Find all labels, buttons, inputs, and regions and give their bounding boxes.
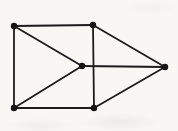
edge-bottom-left-center xyxy=(14,66,82,108)
node-top-middle xyxy=(90,22,96,28)
scanned-page xyxy=(0,0,178,131)
edge-top-left-top-middle xyxy=(14,25,93,26)
edge-top-left-center xyxy=(14,26,82,66)
node-center xyxy=(79,63,85,69)
node-bottom-left xyxy=(11,105,17,111)
graph-diagram xyxy=(0,0,178,131)
edge-center-right xyxy=(82,66,165,67)
edge-top-middle-right xyxy=(93,25,165,67)
node-top-left xyxy=(11,23,17,29)
node-bottom-middle xyxy=(91,105,97,111)
edge-bottom-middle-right xyxy=(94,67,165,108)
node-right xyxy=(162,64,168,70)
